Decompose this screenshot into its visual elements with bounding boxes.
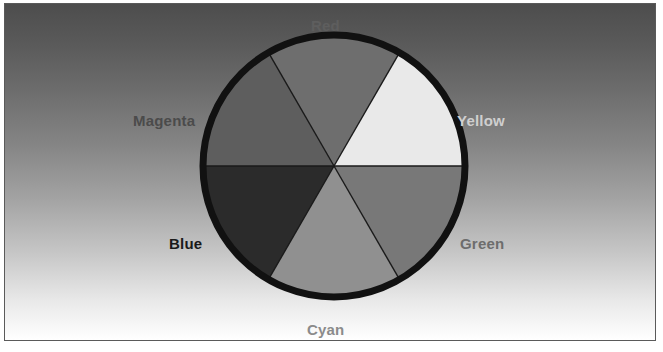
wedge-label-magenta: Magenta: [133, 113, 195, 128]
wedge-label-green: Green: [460, 236, 504, 251]
wedge-label-red: Red: [311, 18, 340, 33]
figure-page: Red Yellow Green Cyan Blue Magenta: [0, 0, 663, 352]
wedge-label-yellow: Yellow: [457, 113, 505, 128]
wedge-label-cyan: Cyan: [307, 322, 344, 337]
figure-frame: Red Yellow Green Cyan Blue Magenta: [4, 3, 656, 341]
wedge-label-blue: Blue: [169, 236, 202, 251]
color-wheel-diagram: [5, 4, 656, 341]
